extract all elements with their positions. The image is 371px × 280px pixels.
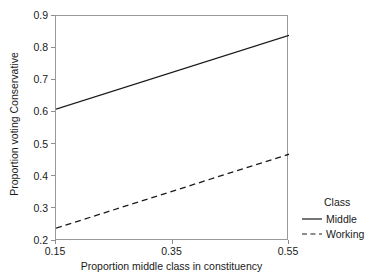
- legend-title: Class: [324, 196, 370, 208]
- legend: Class Middle Working: [302, 196, 370, 242]
- x-tick-mark: [172, 240, 173, 244]
- series-line-working: [56, 154, 289, 228]
- chart-container: 0.20.30.40.50.60.70.80.9 Proportion voti…: [0, 0, 371, 280]
- x-tick-label: 0.15: [25, 245, 85, 257]
- plot-lines: [56, 16, 289, 241]
- x-tick-label: 0.55: [258, 245, 318, 257]
- y-tick-label: 0.6: [33, 105, 48, 117]
- y-tick-label: 0.5: [33, 138, 48, 150]
- x-tick-mark: [288, 240, 289, 244]
- x-tick-mark: [55, 240, 56, 244]
- series-line-middle: [56, 35, 289, 109]
- y-tick-label: 0.9: [33, 9, 48, 21]
- legend-key-dashed-line-icon: [302, 227, 322, 241]
- x-axis: 0.150.350.55: [55, 240, 288, 260]
- y-axis-title: Proportion voting Conservative: [8, 31, 20, 217]
- legend-item-working: Working: [302, 227, 370, 241]
- y-tick-label: 0.3: [33, 202, 48, 214]
- y-tick-label: 0.8: [33, 41, 48, 53]
- legend-label-middle: Middle: [326, 212, 357, 226]
- legend-label-working: Working: [326, 227, 364, 241]
- x-tick-label: 0.35: [142, 245, 202, 257]
- legend-key-solid-line-icon: [302, 212, 322, 226]
- y-tick-label: 0.4: [33, 170, 48, 182]
- x-axis-title: Proportion middle class in constituency: [35, 260, 308, 272]
- plot-area: [55, 15, 288, 240]
- legend-item-middle: Middle: [302, 212, 370, 226]
- y-tick-label: 0.7: [33, 73, 48, 85]
